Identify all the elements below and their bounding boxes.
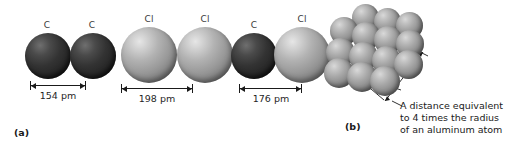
cluster-sphere	[370, 66, 400, 96]
dimension-arrowhead-left	[240, 86, 245, 92]
atom-label-cl-right: Cl	[193, 14, 217, 24]
dimension-bar	[121, 88, 193, 89]
distance-label-c-c: 154 pm	[24, 90, 92, 101]
dimension-arrowhead-left	[31, 83, 36, 89]
atom-pair-cl-cl: Cl Cl 198 pm	[115, 0, 245, 110]
dimension-bar	[30, 85, 86, 86]
dimension-arrowhead-right	[80, 83, 85, 89]
atom-label-ccl-c: C	[243, 20, 265, 30]
atom-label-ccl-cl: Cl	[290, 14, 314, 24]
aluminum-atom-cluster	[322, 0, 432, 105]
panel-a: C C 154 pm Cl Cl	[0, 0, 330, 149]
dimension-line-c-cl	[239, 84, 302, 93]
dimension-cap-right	[301, 84, 302, 93]
dimension-bar	[239, 88, 302, 89]
dimension-cap-right	[85, 81, 86, 90]
atom-sphere-cl-right	[177, 27, 233, 83]
dimension-arrowhead-right	[296, 86, 301, 92]
cluster-caption: A distance equivalent to 4 times the rad…	[400, 100, 517, 137]
dimension-arrowhead-right	[187, 86, 192, 92]
figure-canvas: C C 154 pm Cl Cl	[0, 0, 517, 149]
dimension-arrowhead-left	[122, 86, 127, 92]
panel-label-a: (a)	[14, 127, 29, 138]
distance-label-cl-cl: 198 pm	[123, 93, 191, 104]
dimension-cap-right	[192, 84, 193, 93]
panel-b: A distance equivalent to 4 times the rad…	[322, 0, 517, 149]
distance-label-c-cl: 176 pm	[237, 93, 305, 104]
panel-label-b: (b)	[345, 121, 360, 132]
atom-label-c-right: C	[81, 20, 103, 30]
atom-label-cl-left: Cl	[137, 14, 161, 24]
atom-pair-c-c: C C 154 pm	[0, 0, 130, 110]
atom-sphere-ccl-c	[231, 33, 277, 79]
dimension-line-cl-cl	[121, 84, 193, 93]
atom-sphere-cl-left	[121, 27, 177, 83]
atom-sphere-c-left	[25, 33, 71, 79]
atom-label-c-left: C	[36, 20, 58, 30]
dimension-line-c-c	[30, 81, 86, 90]
atom-sphere-c-right	[70, 33, 116, 79]
